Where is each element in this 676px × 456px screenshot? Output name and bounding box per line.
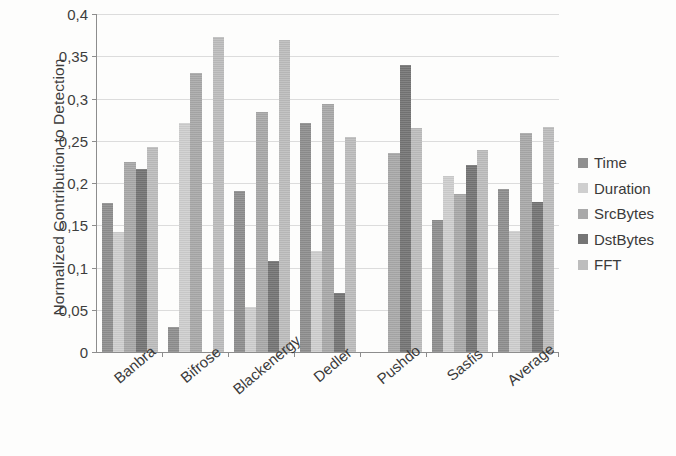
bar-group (229, 14, 295, 352)
legend-item: FFT (578, 257, 654, 272)
y-tick-label: 0,35 (59, 48, 88, 65)
bar (268, 261, 279, 352)
bar (532, 202, 543, 352)
legend-item: Duration (578, 181, 654, 196)
bar (102, 203, 113, 352)
plot-area: 00,050,10,150,20,250,30,350,4 (96, 14, 559, 353)
bar (400, 65, 411, 352)
y-tick-label: 0,25 (59, 132, 88, 149)
legend-label: Duration (594, 181, 651, 196)
bar (477, 150, 488, 352)
bar (234, 191, 245, 352)
bar (454, 194, 465, 352)
x-axis-labels: BanbraBifroseBlackenergyDedlerPushdoSasf… (96, 352, 558, 452)
y-tick-label: 0 (80, 344, 88, 361)
bar (179, 123, 190, 352)
x-tick-label-wrap: Dedler (294, 352, 360, 452)
bar (245, 307, 256, 352)
legend-item: SrcBytes (578, 206, 654, 221)
legend-label: FFT (594, 257, 622, 272)
y-tick-label: 0,15 (59, 217, 88, 234)
bar-group (163, 14, 229, 352)
y-tick-label: 0,1 (67, 259, 88, 276)
bar (256, 112, 267, 352)
legend-label: DstBytes (594, 232, 654, 247)
bar (300, 123, 311, 352)
bar (411, 128, 422, 352)
legend-item: DstBytes (578, 232, 654, 247)
bar-group (427, 14, 493, 352)
bar-group (97, 14, 163, 352)
legend-label: Time (594, 155, 627, 170)
bar (432, 220, 443, 352)
bar (113, 232, 124, 352)
bar (388, 153, 399, 352)
legend-swatch-icon (578, 209, 588, 219)
x-tick-label-wrap: Blackenergy (228, 352, 294, 452)
bar (311, 251, 322, 352)
legend-label: SrcBytes (594, 206, 654, 221)
bar (466, 165, 477, 352)
legend-swatch-icon (578, 260, 588, 270)
bar (543, 127, 554, 352)
bar-group (295, 14, 361, 352)
y-tick-label: 0,2 (67, 175, 88, 192)
bar (213, 37, 224, 352)
bar-chart: Normalized Contribution to Detection 00,… (0, 0, 676, 456)
bar-group (361, 14, 427, 352)
legend-swatch-icon (578, 183, 588, 193)
bar (498, 189, 509, 352)
bar (168, 327, 179, 352)
bar-group (493, 14, 559, 352)
x-tick-label-wrap: Average (492, 352, 558, 452)
bar (124, 162, 135, 352)
bar (136, 169, 147, 352)
bar (279, 40, 290, 352)
x-tick-label-wrap: Pushdo (360, 352, 426, 452)
legend-swatch-icon (578, 234, 588, 244)
bar (322, 104, 333, 352)
bar (345, 137, 356, 352)
legend-item: Time (578, 155, 654, 170)
y-tick-label: 0,3 (67, 90, 88, 107)
bar-groups (97, 14, 559, 352)
bar (509, 231, 520, 352)
bar (147, 147, 158, 352)
x-tick-label-wrap: Bifrose (162, 352, 228, 452)
x-tick-label-wrap: Sasfis (426, 352, 492, 452)
legend: TimeDurationSrcBytesDstBytesFFT (578, 155, 654, 272)
legend-swatch-icon (578, 158, 588, 168)
bar (190, 73, 201, 352)
y-tick-label: 0,05 (59, 301, 88, 318)
bar (443, 176, 454, 352)
y-tick-label: 0,4 (67, 6, 88, 23)
x-tick-label-wrap: Banbra (96, 352, 162, 452)
bar (520, 133, 531, 352)
